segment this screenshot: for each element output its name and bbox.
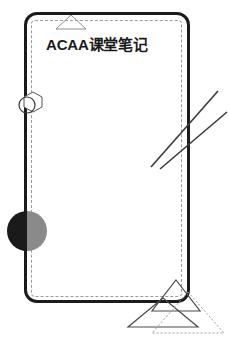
circle-hexagon-decoration (15, 88, 47, 120)
parallel-diagonal-lines-decoration (148, 88, 229, 170)
parallel-lines-icon (148, 88, 229, 170)
bottom-triangle-pair-decoration (126, 278, 229, 338)
page-title: ACAA课堂笔记 (46, 35, 166, 54)
circle-hexagon-icon (15, 88, 47, 120)
half-tone-circle-icon (6, 210, 48, 252)
half-tone-circle-decoration (6, 210, 48, 252)
poster-canvas: ACAA课堂笔记 (0, 0, 229, 340)
bottom-triangles-icon (126, 278, 229, 338)
